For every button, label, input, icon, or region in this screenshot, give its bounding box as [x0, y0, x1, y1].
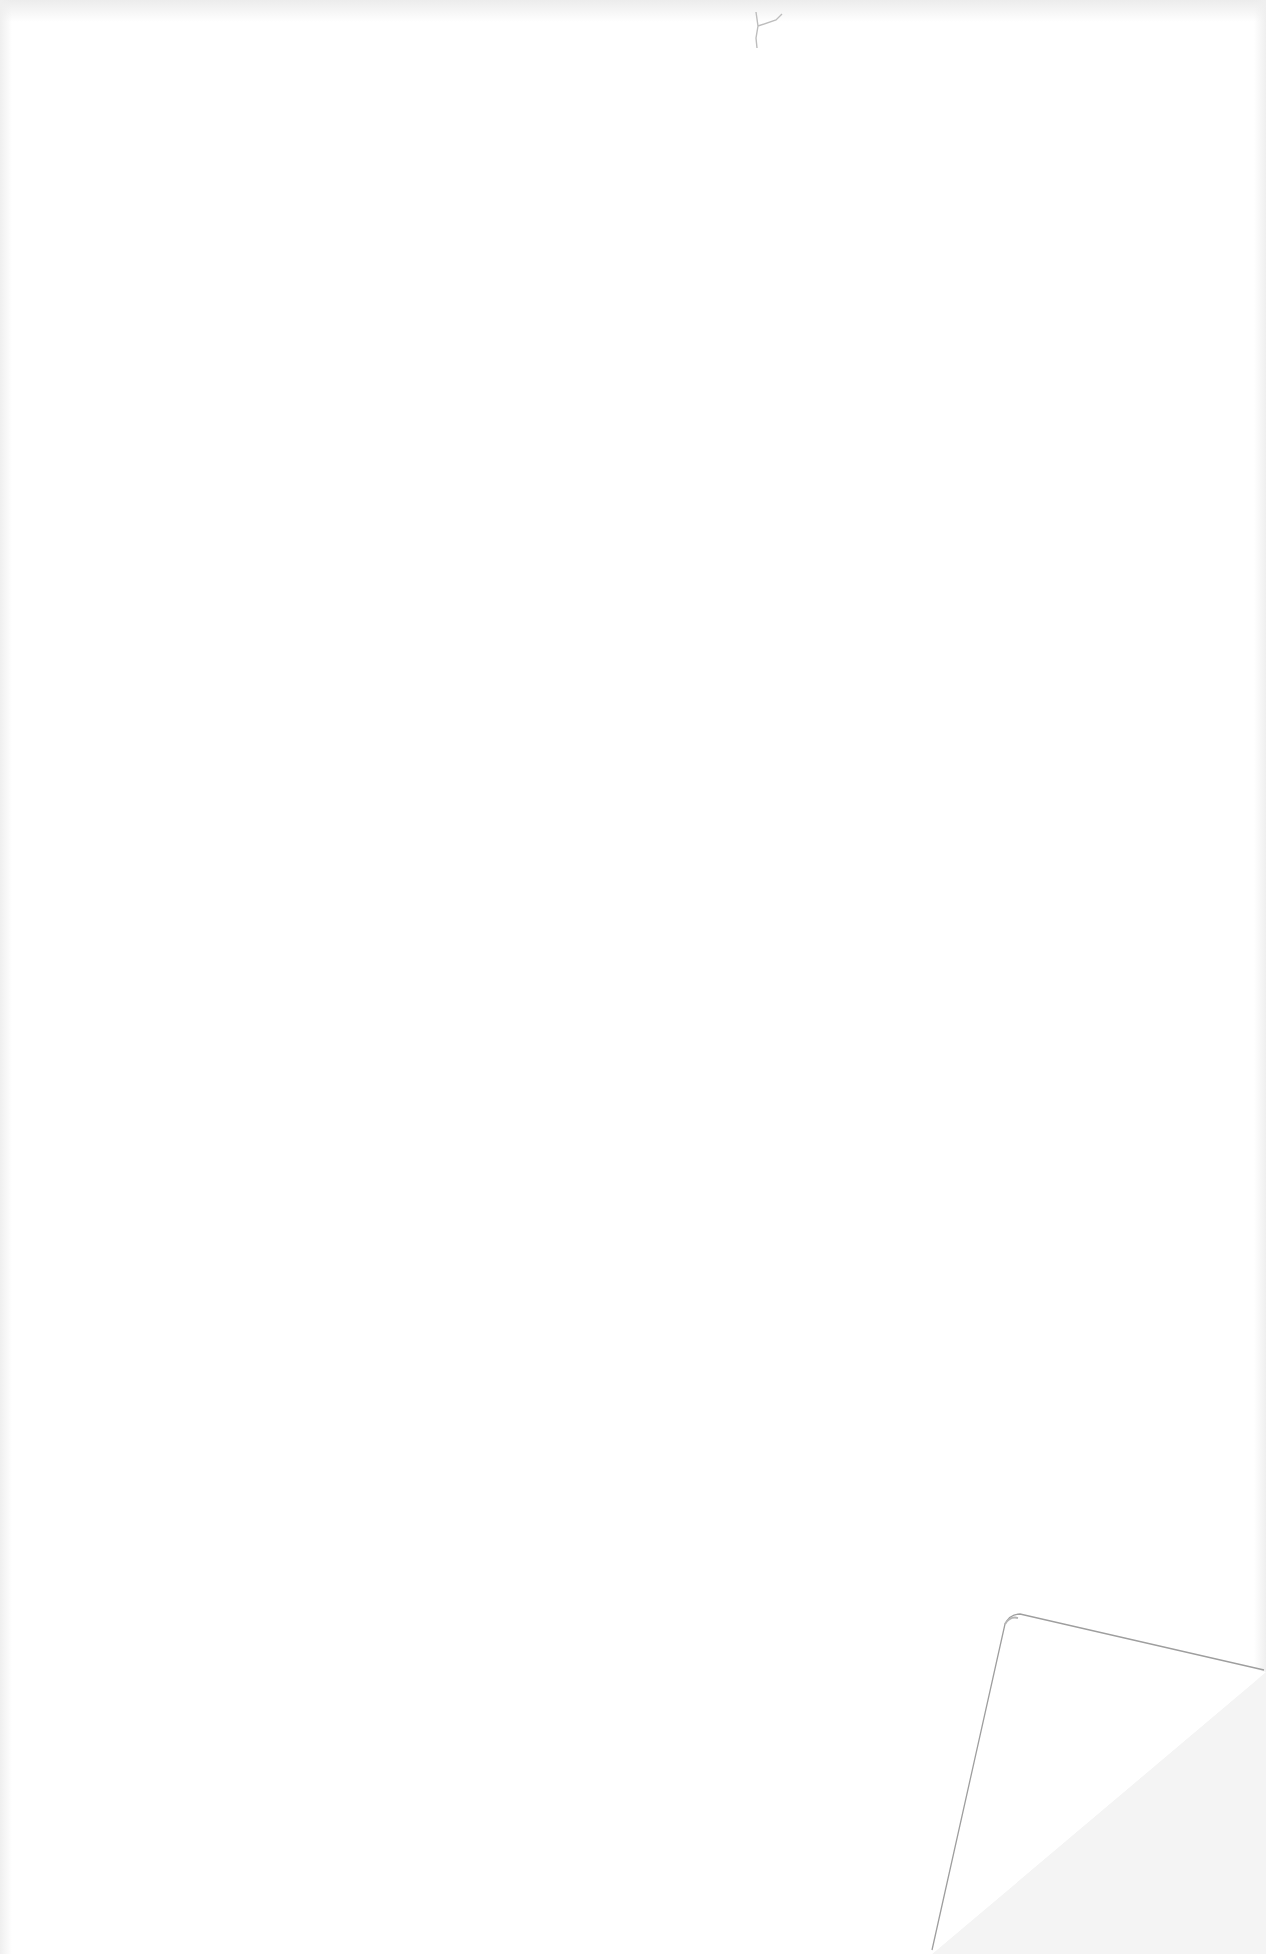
- scratch-mark: [752, 8, 792, 58]
- scan-edge-top: [0, 0, 1266, 22]
- folded-corner: [0, 0, 1266, 1954]
- scan-edge-right: [1254, 0, 1266, 1954]
- blank-page: [0, 0, 1266, 1954]
- scan-edge-left: [0, 0, 12, 1954]
